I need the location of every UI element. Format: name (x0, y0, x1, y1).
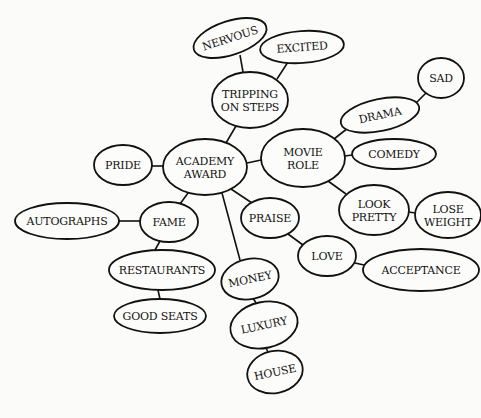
node-tripping: TRIPPINGON STEPS (212, 72, 288, 128)
node-love: LOVE (298, 236, 356, 276)
edge-movie-role-to-look-pretty (328, 181, 346, 194)
concept-map: ACADEMYAWARDTRIPPINGON STEPSNERVOUSEXCIT… (0, 0, 481, 418)
node-sad: SAD (418, 58, 464, 98)
edge-academy-award-to-money (222, 193, 240, 260)
node-lose-weight: LOSEWEIGHT (415, 192, 481, 238)
node-label: PRETTY (352, 211, 398, 224)
edge-academy-award-to-movie-role (247, 160, 261, 163)
edge-excited-to-tripping (277, 62, 288, 79)
node-label: GOOD SEATS (123, 310, 198, 323)
node-label: TRIPPING (222, 88, 278, 101)
node-label: SAD (429, 72, 453, 85)
edge-fame-to-restaurants (155, 241, 160, 250)
edge-nervous-to-tripping (240, 55, 243, 72)
node-label: AUTOGRAPHS (25, 215, 107, 228)
edge-love-to-acceptance (355, 263, 364, 265)
node-nervous: NERVOUS (189, 10, 272, 66)
node-excited: EXCITED (259, 28, 345, 66)
node-label: ROLE (287, 159, 319, 172)
node-house: HOUSE (243, 346, 307, 399)
node-label: PRAISE (249, 212, 292, 225)
node-restaurants: RESTAURANTS (109, 250, 215, 290)
node-label: LOSE (432, 203, 463, 216)
edge-tripping-to-academy-award (226, 126, 236, 143)
node-academy-award: ACADEMYAWARD (163, 139, 247, 195)
node-label: ACCEPTANCE (381, 264, 461, 277)
node-label: ACADEMY (175, 155, 235, 168)
node-good-seats: GOOD SEATS (114, 299, 206, 333)
edge-restaurants-to-good-seats (158, 290, 160, 299)
node-comedy: COMEDY (352, 139, 436, 169)
node-acceptance: ACCEPTANCE (363, 249, 479, 291)
edge-movie-role-to-comedy (345, 155, 352, 156)
node-money: MONEY (217, 253, 282, 304)
node-movie-role: MOVIEROLE (261, 129, 345, 187)
node-fame: FAME (140, 202, 198, 242)
node-label: COMEDY (368, 148, 421, 161)
edge-praise-to-love (288, 234, 303, 245)
node-label: ON STEPS (221, 101, 279, 114)
edge-look-pretty-to-lose-weight (409, 212, 415, 213)
node-label: WEIGHT (424, 216, 473, 229)
node-label: LOVE (311, 250, 342, 263)
edge-academy-award-to-praise (231, 189, 252, 203)
node-layer: ACADEMYAWARDTRIPPINGON STEPSNERVOUSEXCIT… (15, 10, 481, 398)
node-luxury: LUXURY (226, 295, 302, 354)
node-label: FAME (152, 216, 185, 229)
node-label: LOOK (358, 198, 392, 211)
node-label: RESTAURANTS (119, 264, 205, 277)
node-pride: PRIDE (94, 145, 152, 185)
node-label: MOVIE (283, 146, 323, 159)
edge-academy-award-to-fame (180, 193, 188, 204)
node-label: PRIDE (105, 159, 141, 172)
node-look-pretty: LOOKPRETTY (339, 185, 409, 235)
node-drama: DRAMA (338, 91, 423, 139)
node-praise: PRAISE (241, 198, 299, 238)
node-autographs: AUTOGRAPHS (15, 203, 119, 239)
node-label: AWARD (183, 168, 227, 181)
